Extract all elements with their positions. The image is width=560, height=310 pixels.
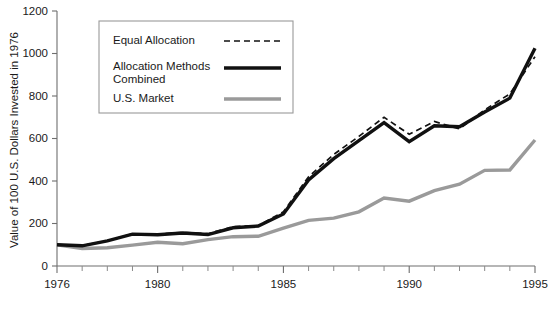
y-tick-label: 800 xyxy=(29,90,48,102)
x-tick-label: 1976 xyxy=(44,278,70,290)
y-tick-label: 1200 xyxy=(22,5,48,17)
y-tick-label: 0 xyxy=(42,260,48,272)
x-tick-label: 1985 xyxy=(271,278,297,290)
chart-legend: Equal Allocation Allocation Methods Comb… xyxy=(99,21,293,113)
legend-label-allocation-methods-line1: Allocation Methods xyxy=(113,60,210,72)
y-axis-ticks: 020040060080010001200 xyxy=(22,5,57,272)
x-tick-label: 1990 xyxy=(396,278,422,290)
legend-label-allocation-methods-line2: Combined xyxy=(113,73,165,85)
line-chart: Value of 100 U.S. Dollars Invested in 19… xyxy=(0,0,560,310)
y-axis-title: Value of 100 U.S. Dollars Invested in 19… xyxy=(8,32,20,248)
x-tick-label: 1995 xyxy=(522,278,548,290)
y-tick-label: 200 xyxy=(29,217,48,229)
chart-container: Value of 100 U.S. Dollars Invested in 19… xyxy=(0,0,560,310)
x-axis-ticks: 19761980198519901995 xyxy=(44,266,548,290)
x-tick-label: 1980 xyxy=(145,278,171,290)
y-tick-label: 400 xyxy=(29,175,48,187)
legend-label-us-market: U.S. Market xyxy=(113,92,175,104)
y-tick-label: 600 xyxy=(29,132,48,144)
y-tick-label: 1000 xyxy=(22,47,48,59)
legend-label-equal-allocation: Equal Allocation xyxy=(113,34,195,46)
